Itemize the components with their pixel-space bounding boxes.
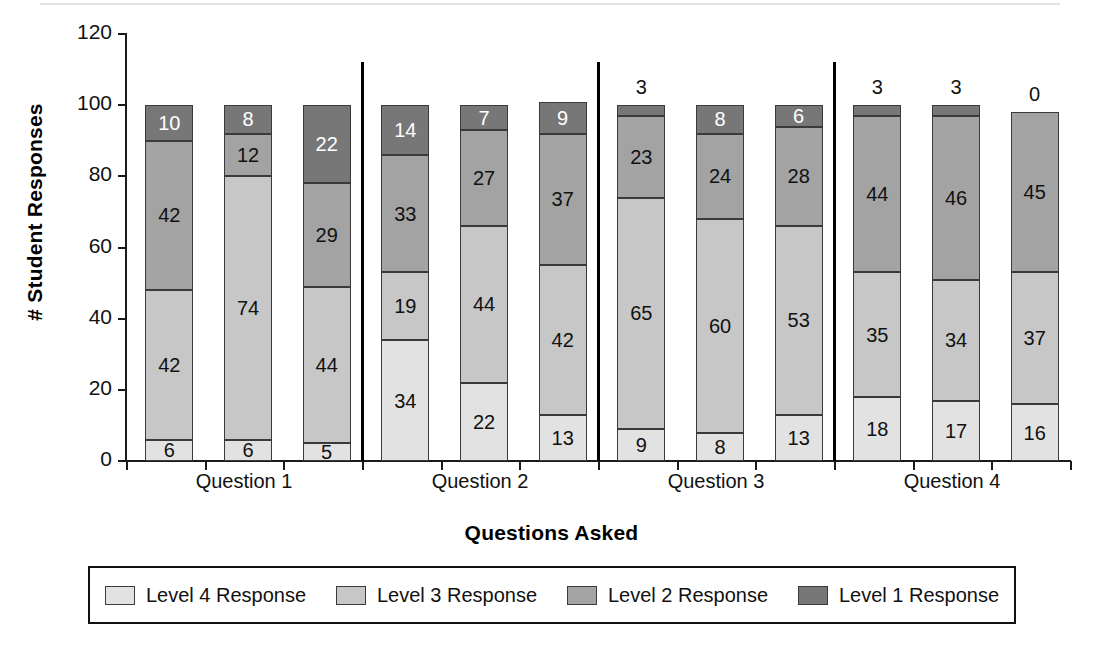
bar-segment[interactable]: 13 bbox=[539, 415, 587, 461]
bar-segment-value-label: 10 bbox=[158, 113, 180, 133]
bar-segment[interactable] bbox=[932, 105, 980, 116]
legend-item[interactable]: Level 1 Response bbox=[798, 584, 999, 607]
y-tick-label-100: 100 bbox=[52, 91, 112, 115]
bar-segment[interactable]: 27 bbox=[460, 130, 508, 226]
bar-segment[interactable]: 34 bbox=[932, 280, 980, 401]
bar-segment[interactable] bbox=[853, 105, 901, 116]
y-tick-label-80: 80 bbox=[52, 162, 112, 186]
bar-segment[interactable]: 5 bbox=[303, 443, 351, 461]
bar-segment-value-label: 7 bbox=[478, 108, 489, 128]
bar-segment[interactable]: 65 bbox=[617, 198, 665, 429]
bar-segment[interactable]: 16 bbox=[1011, 404, 1059, 461]
bar-segment[interactable]: 35 bbox=[853, 272, 901, 397]
bar-segment[interactable]: 42 bbox=[145, 290, 193, 439]
bar-segment[interactable]: 42 bbox=[539, 265, 587, 414]
stacked-bar[interactable]: 1353286 bbox=[775, 105, 823, 461]
bar-segment[interactable]: 8 bbox=[224, 105, 272, 133]
stacked-bar[interactable]: 1835443 bbox=[853, 105, 901, 461]
legend-swatch-icon bbox=[105, 586, 135, 605]
bar-segment[interactable]: 53 bbox=[775, 226, 823, 415]
y-axis-title: # Student Responses bbox=[23, 2, 47, 422]
bar-segment[interactable]: 24 bbox=[696, 134, 744, 219]
stacked-bar[interactable]: 34193314 bbox=[381, 105, 429, 461]
y-tick-label-20: 20 bbox=[52, 376, 112, 400]
bar-segment[interactable]: 45 bbox=[1011, 112, 1059, 272]
bar-segment[interactable]: 37 bbox=[539, 134, 587, 266]
x-axis-group-label-1: Question 1 bbox=[154, 470, 334, 493]
bar-segment[interactable]: 22 bbox=[303, 105, 351, 183]
stacked-bar[interactable]: 2244277 bbox=[460, 105, 508, 461]
y-axis-title-holder: # Student Responses bbox=[0, 0, 60, 500]
bar-above-value-label: 3 bbox=[853, 76, 901, 99]
x-tick-5 bbox=[519, 461, 521, 470]
bar-segment[interactable]: 17 bbox=[932, 401, 980, 461]
legend-item[interactable]: Level 3 Response bbox=[336, 584, 537, 607]
stacked-bar[interactable]: 6424210 bbox=[145, 105, 193, 461]
y-tick-label-60: 60 bbox=[52, 234, 112, 258]
bar-segment[interactable]: 6 bbox=[224, 440, 272, 461]
x-axis-group-label-4: Question 4 bbox=[862, 470, 1042, 493]
bar-segment[interactable]: 13 bbox=[775, 415, 823, 461]
bar-segment[interactable]: 14 bbox=[381, 105, 429, 155]
bar-segment-value-label: 13 bbox=[788, 428, 810, 448]
bar-segment-value-label: 9 bbox=[636, 435, 647, 455]
bar-segment[interactable]: 74 bbox=[224, 176, 272, 439]
bar-segment[interactable]: 12 bbox=[224, 134, 272, 177]
legend-item[interactable]: Level 4 Response bbox=[105, 584, 306, 607]
bar-segment[interactable]: 9 bbox=[539, 102, 587, 134]
bar-segment[interactable] bbox=[617, 105, 665, 116]
bar-segment-value-label: 24 bbox=[709, 166, 731, 186]
stacked-bar[interactable]: 1342379 bbox=[539, 102, 587, 461]
bar-segment[interactable]: 18 bbox=[853, 397, 901, 461]
bar-segment-value-label: 22 bbox=[316, 134, 338, 154]
bar-segment-value-label: 42 bbox=[158, 205, 180, 225]
legend-item[interactable]: Level 2 Response bbox=[567, 584, 768, 607]
bar-segment[interactable]: 9 bbox=[617, 429, 665, 461]
bar-segment[interactable]: 60 bbox=[696, 219, 744, 433]
bar-segment-value-label: 23 bbox=[630, 147, 652, 167]
bar-segment[interactable]: 19 bbox=[381, 272, 429, 340]
bar-segment-value-label: 65 bbox=[630, 303, 652, 323]
bar-segment[interactable]: 37 bbox=[1011, 272, 1059, 404]
bar-segment-value-label: 22 bbox=[473, 412, 495, 432]
bar-segment[interactable]: 33 bbox=[381, 155, 429, 272]
bar-segment[interactable]: 34 bbox=[381, 340, 429, 461]
x-tick-9 bbox=[834, 461, 836, 470]
bar-segment[interactable]: 6 bbox=[775, 105, 823, 126]
x-axis-title: Questions Asked bbox=[0, 521, 1103, 545]
bar-above-value-label: 0 bbox=[1011, 83, 1059, 106]
bar-segment[interactable]: 8 bbox=[696, 105, 744, 133]
bar-segment[interactable]: 44 bbox=[303, 287, 351, 444]
bar-segment[interactable]: 22 bbox=[460, 383, 508, 461]
bar-segment[interactable]: 29 bbox=[303, 183, 351, 286]
stacked-bar[interactable]: 965233 bbox=[617, 105, 665, 461]
bar-segment[interactable]: 10 bbox=[145, 105, 193, 141]
stacked-bar[interactable]: 860248 bbox=[696, 105, 744, 461]
x-tick-2 bbox=[283, 461, 285, 470]
bar-segment-value-label: 46 bbox=[945, 188, 967, 208]
x-tick-11 bbox=[991, 461, 993, 470]
stacked-bar[interactable]: 5442922 bbox=[303, 105, 351, 461]
bar-segment[interactable]: 28 bbox=[775, 127, 823, 227]
bar-segment-value-label: 13 bbox=[552, 428, 574, 448]
x-tick-0 bbox=[126, 461, 128, 470]
bar-segment-value-label: 6 bbox=[242, 440, 253, 460]
stacked-bar[interactable]: 674128 bbox=[224, 105, 272, 461]
stacked-bar[interactable]: 1734463 bbox=[932, 105, 980, 461]
bar-segment[interactable]: 44 bbox=[460, 226, 508, 383]
bar-segment[interactable]: 44 bbox=[853, 116, 901, 273]
y-tick-label-40: 40 bbox=[52, 305, 112, 329]
x-tick-4 bbox=[441, 461, 443, 470]
bar-segment[interactable]: 8 bbox=[696, 433, 744, 461]
bar-segment-value-label: 6 bbox=[793, 106, 804, 126]
bar-segment-value-label: 60 bbox=[709, 316, 731, 336]
bar-segment[interactable]: 6 bbox=[145, 440, 193, 461]
bar-segment-value-label: 17 bbox=[945, 421, 967, 441]
bar-segment[interactable]: 23 bbox=[617, 116, 665, 198]
bar-segment[interactable]: 46 bbox=[932, 116, 980, 280]
bar-segment[interactable]: 7 bbox=[460, 105, 508, 130]
bar-segment-value-label: 8 bbox=[714, 437, 725, 457]
stacked-bar[interactable]: 1637450 bbox=[1011, 112, 1059, 461]
bar-segment-value-label: 33 bbox=[394, 204, 416, 224]
bar-segment[interactable]: 42 bbox=[145, 141, 193, 290]
